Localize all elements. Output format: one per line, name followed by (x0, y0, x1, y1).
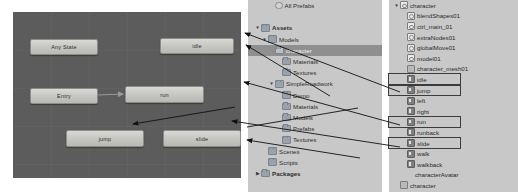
project-row-scripts[interactable]: Scripts (248, 157, 382, 168)
project-row-label: Demo (293, 92, 310, 99)
project-row-scenes[interactable]: Scenes (248, 145, 382, 156)
chevron-down-icon[interactable]: ▼ (261, 37, 268, 42)
state-node-label: run (160, 92, 169, 98)
state-node-label: Any State (51, 44, 77, 50)
state-node-slide[interactable]: slide (163, 130, 241, 147)
hierarchy-row-characteravatar[interactable]: characterAvatar (389, 170, 518, 181)
folder-icon (261, 170, 270, 178)
project-row-label: Packages (272, 170, 301, 177)
project-row-models[interactable]: Models (248, 112, 382, 123)
hierarchy-row-label: extraNodes01 (417, 34, 456, 41)
hierarchy-row-label: character_mesh01 (417, 65, 468, 72)
hierarchy-row-label: slide (417, 140, 430, 147)
project-row-character[interactable]: character (248, 45, 382, 56)
hierarchy-row-label: model01 (417, 55, 441, 62)
folder-icon (268, 158, 277, 166)
hierarchy-row-run[interactable]: run (389, 117, 460, 128)
folder-icon (268, 35, 277, 43)
state-node-label: jump (99, 136, 112, 142)
hierarchy-row-label: globalMove01 (417, 44, 456, 51)
project-row-label: SimpleRoadwork (286, 80, 333, 87)
folder-icon (275, 47, 284, 55)
project-row-demo[interactable]: Demo (248, 90, 382, 101)
chevron-right-icon[interactable]: ▶ (254, 171, 261, 176)
state-node-jump[interactable]: jump (66, 130, 144, 147)
node-icon (407, 54, 415, 62)
project-row-label: Scripts (279, 159, 298, 166)
project-row-all-prefabs[interactable]: All Prefabs (248, 0, 382, 11)
hierarchy-row-right[interactable]: right (389, 106, 518, 117)
node-icon (400, 1, 408, 9)
hierarchy-panel[interactable]: ▼characterblendShapes01ctrl_main_01extra… (389, 0, 518, 192)
clip-icon (407, 128, 415, 136)
hierarchy-row-jump[interactable]: jump (389, 85, 460, 96)
hierarchy-row-walk[interactable]: walk (389, 148, 518, 159)
project-row-materials[interactable]: Materials (248, 101, 382, 112)
hierarchy-row-walkback[interactable]: walkback (389, 159, 518, 170)
hierarchy-row-label: character (410, 2, 436, 9)
project-row-label: Assets (272, 24, 292, 31)
project-row-materials[interactable]: Materials (248, 56, 382, 67)
project-row-models[interactable]: ▼Models (248, 34, 382, 45)
folder-icon (282, 58, 291, 66)
hierarchy-row-globalmove01[interactable]: globalMove01 (389, 42, 518, 53)
state-node-entry[interactable]: Entry (30, 88, 98, 104)
hierarchy-row-character-mesh01[interactable]: character_mesh01 (389, 64, 518, 75)
state-node-run[interactable]: run (125, 86, 204, 103)
chevron-down-icon[interactable]: ▼ (254, 25, 261, 30)
node-icon (407, 33, 415, 41)
chevron-down-icon[interactable]: ▼ (393, 3, 400, 8)
clip-icon (407, 107, 415, 115)
screenshot-root: Any State idle Entry run jump slide All … (0, 0, 518, 192)
project-row-packages[interactable]: ▶Packages (248, 168, 382, 179)
project-panel[interactable]: All Prefabs▼Assets▼ModelscharacterMateri… (248, 0, 382, 192)
project-row-textures[interactable]: Textures (248, 134, 382, 145)
clip-icon (407, 118, 415, 126)
folder-icon (282, 114, 291, 122)
mesh-icon (400, 181, 408, 189)
project-row-prefabs[interactable]: Prefabs (248, 123, 382, 134)
project-row-spacer (248, 11, 382, 22)
hierarchy-row-runback[interactable]: runback (389, 127, 518, 138)
hierarchy-row-label: jump (417, 87, 430, 94)
folder-icon (282, 91, 291, 99)
state-node-label: slide (196, 136, 208, 142)
state-node-label: idle (192, 43, 201, 49)
hierarchy-row-character[interactable]: ▼character (389, 0, 518, 11)
state-node-idle[interactable]: idle (160, 38, 234, 54)
project-row-label: Models (293, 114, 313, 121)
folder-icon (275, 80, 284, 88)
state-node-label: Entry (57, 93, 71, 99)
hierarchy-row-label: left (417, 97, 425, 104)
hierarchy-row-label: run (417, 118, 426, 125)
project-row-textures[interactable]: Textures (248, 67, 382, 78)
hierarchy-row-idle[interactable]: idle (389, 74, 460, 85)
hierarchy-row-character[interactable]: character (389, 180, 518, 191)
folder-icon (282, 125, 291, 133)
hierarchy-row-extranodes01[interactable]: extraNodes01 (389, 32, 518, 43)
folder-icon (268, 147, 277, 155)
folder-icon (282, 136, 291, 144)
clip-icon (407, 150, 415, 158)
hierarchy-row-model01[interactable]: model01 (389, 53, 518, 64)
hierarchy-row-label: walkback (417, 161, 442, 168)
state-node-any-state[interactable]: Any State (30, 39, 98, 55)
hierarchy-row-slide[interactable]: slide (389, 138, 460, 149)
hierarchy-row-label: runback (417, 129, 439, 136)
hierarchy-row-ctrl-main-01[interactable]: ctrl_main_01 (389, 21, 518, 32)
prefab-icon (275, 2, 283, 10)
node-icon (407, 12, 415, 20)
project-row-label: character (286, 47, 312, 54)
node-icon (407, 44, 415, 52)
project-row-label: All Prefabs (285, 2, 315, 9)
hierarchy-row-label: blendShapes01 (417, 12, 460, 19)
folder-icon (282, 103, 291, 111)
project-row-assets[interactable]: ▼Assets (248, 22, 382, 33)
hierarchy-row-label: character (410, 182, 436, 189)
chevron-down-icon[interactable]: ▼ (268, 81, 275, 86)
animator-panel[interactable]: Any State idle Entry run jump slide (13, 12, 241, 178)
hierarchy-rows: ▼characterblendShapes01ctrl_main_01extra… (389, 0, 518, 191)
project-row-simpleroadwork[interactable]: ▼SimpleRoadwork (248, 78, 382, 89)
hierarchy-row-blendshapes01[interactable]: blendShapes01 (389, 11, 518, 22)
hierarchy-row-left[interactable]: left (389, 95, 518, 106)
